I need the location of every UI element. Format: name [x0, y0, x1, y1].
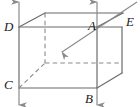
geometry-figure: D A E C B — [0, 0, 140, 107]
vertex-label-c: C — [4, 77, 13, 92]
vertex-label-b: B — [85, 91, 93, 106]
bottom-right-slant-edge — [97, 73, 122, 88]
hidden-bottom-left-slant-edge — [19, 63, 45, 88]
vertex-label-a: A — [87, 18, 96, 33]
top-left-slant-edge — [19, 13, 45, 27]
box-diagram-svg: D A E C B — [0, 0, 140, 107]
dashed-edges-group — [19, 13, 122, 88]
vertex-labels-group: D A E C B — [3, 14, 134, 106]
vertex-label-e: E — [125, 14, 134, 29]
solid-edges-group — [19, 13, 123, 88]
vertex-label-d: D — [3, 19, 14, 34]
